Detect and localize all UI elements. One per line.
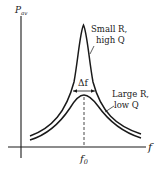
center-frequency-label: f0	[79, 153, 88, 166]
high-q-pointer	[90, 46, 94, 54]
low-q-pointer	[105, 106, 114, 112]
bandwidth-label: Δf	[78, 78, 88, 88]
axes	[8, 16, 146, 158]
bandwidth-arrow	[73, 89, 95, 93]
resonance-diagram: Pav f Δf f0 Small R, high Q Large R, low…	[0, 0, 164, 170]
low-q-label: Large R, low Q	[112, 89, 152, 110]
x-axis-label: f	[147, 141, 154, 154]
high-q-label: Small R, high Q	[91, 24, 130, 45]
y-axis-label: Pav	[14, 5, 28, 16]
